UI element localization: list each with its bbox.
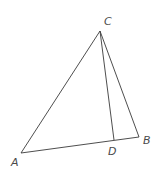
segment-bc [100, 31, 139, 137]
segment-cd [100, 31, 114, 140]
label-c: C [104, 15, 112, 28]
label-d: D [108, 145, 116, 158]
label-b: B [143, 134, 151, 147]
segment-ab [21, 137, 139, 153]
triangle-diagram: C B D A [0, 0, 159, 173]
label-a: A [10, 156, 19, 169]
segment-ca [21, 31, 100, 153]
